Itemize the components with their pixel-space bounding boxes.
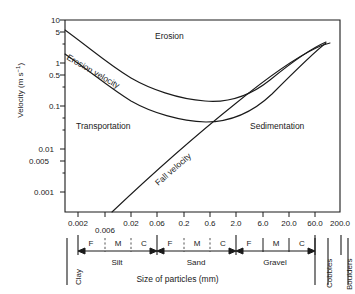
y-axis-ticks: [60, 20, 65, 192]
x-tick-0.02: 0.02: [117, 219, 145, 228]
x-tick-6.0: 6.0: [251, 219, 275, 228]
x-tick-0.6: 0.6: [198, 219, 222, 228]
group-label-gravel: Gravel: [253, 258, 297, 267]
subclass-gravel-m: M: [269, 239, 283, 248]
subclass-silt-c: C: [137, 239, 151, 248]
group-label-silt: Silt: [95, 258, 139, 267]
plot-frame: [65, 20, 340, 212]
subclass-sand-f: F: [163, 239, 177, 248]
region-label-transportation: Transportation: [76, 121, 131, 131]
subclass-silt-f: F: [84, 239, 98, 248]
region-label-erosion: Erosion: [155, 31, 184, 41]
x-axis-ticks: [78, 212, 315, 217]
subclass-gravel-c: C: [295, 239, 309, 248]
x-tick-20.0: 20.0: [275, 219, 303, 228]
hjulstrom-diagram: Velocity (m s−1) 10 5 1 0.5 0.1 0.01 0.0…: [0, 0, 355, 294]
group-label-sand: Sand: [174, 258, 218, 267]
subclass-sand-c: C: [216, 239, 230, 248]
x-tick-2.0: 2.0: [224, 219, 248, 228]
plot-svg: [0, 0, 355, 294]
x-axis-title: Size of particles (mm): [0, 274, 355, 284]
subclass-gravel-f: F: [242, 239, 256, 248]
subclass-silt-m: M: [111, 239, 125, 248]
x-tick-0.06: 0.06: [143, 219, 171, 228]
subclass-sand-m: M: [190, 239, 204, 248]
region-label-sedimentation: Sedimentation: [250, 121, 304, 131]
x-tick-0.2: 0.2: [172, 219, 196, 228]
x-tick-200.0: 200.0: [324, 219, 355, 228]
